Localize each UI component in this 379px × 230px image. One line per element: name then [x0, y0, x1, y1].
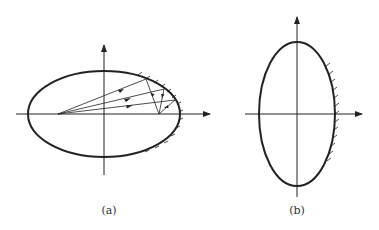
reflected-arrowheads	[151, 93, 169, 108]
hatch-marks-b	[326, 63, 339, 161]
diagram-canvas	[0, 0, 379, 230]
figure-a	[16, 45, 210, 175]
caption-b: (b)	[289, 204, 305, 217]
hatch-marks-a	[138, 72, 183, 152]
caption-a: (a)	[101, 204, 116, 217]
figure-b	[245, 17, 362, 197]
